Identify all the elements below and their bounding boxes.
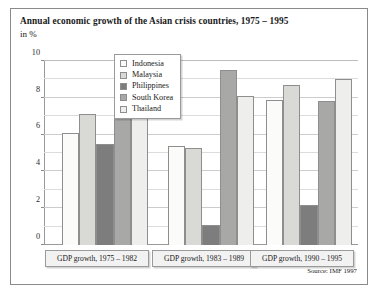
y-axis-tick-mark	[41, 97, 44, 98]
chart-figure: Annual economic growth of the Asian cris…	[10, 8, 368, 285]
bar	[237, 96, 254, 245]
category-label: GDP growth, 1975 – 1982	[45, 250, 149, 267]
bar	[62, 133, 79, 245]
bar	[266, 100, 283, 245]
bar	[202, 225, 219, 245]
y-axis-tick-label: 2	[22, 196, 40, 204]
category-label: GDP growth, 1983 – 1989	[152, 250, 256, 267]
bar	[318, 101, 335, 245]
y-axis-tick-label: 4	[22, 159, 40, 167]
legend-swatch-icon	[120, 94, 127, 101]
legend-item-label: South Korea	[132, 94, 173, 102]
bar	[79, 114, 96, 245]
bar	[96, 144, 113, 245]
bar-group	[266, 61, 352, 245]
category-label: GDP growth, 1990 – 1995	[250, 250, 354, 267]
bar	[283, 85, 300, 245]
legend-swatch-icon	[120, 60, 127, 67]
y-axis-tick-label: 10	[22, 49, 40, 57]
legend-swatch-icon	[120, 106, 127, 113]
legend-item: Malaysia	[120, 69, 173, 80]
y-axis-tick-mark	[41, 170, 44, 171]
y-axis-tick-label: 0	[22, 233, 40, 241]
chart-legend: IndonesiaMalaysiaPhilippinesSouth KoreaT…	[114, 54, 181, 119]
y-axis-tick-label: 6	[22, 122, 40, 130]
legend-item: South Korea	[120, 92, 173, 103]
bar	[185, 148, 202, 245]
legend-swatch-icon	[120, 72, 127, 79]
legend-item-label: Malaysia	[132, 71, 162, 79]
chart-title: Annual economic growth of the Asian cris…	[20, 16, 288, 26]
bar	[114, 116, 131, 245]
y-axis-tick-mark	[41, 244, 44, 245]
legend-item: Thailand	[120, 104, 173, 115]
source-note: Source: IMF 1997	[307, 267, 357, 274]
bar	[168, 146, 185, 245]
bar	[220, 70, 237, 245]
legend-item-label: Philippines	[132, 82, 169, 90]
legend-item-label: Thailand	[132, 105, 161, 113]
legend-item: Philippines	[120, 81, 173, 92]
y-axis-tick-mark	[41, 207, 44, 208]
chart-subtitle: in %	[20, 29, 37, 39]
plot-area: 0246810	[44, 61, 358, 245]
bar	[335, 79, 352, 245]
y-axis-tick-label: 8	[22, 86, 40, 94]
legend-item-label: Indonesia	[132, 60, 164, 68]
legend-item: Indonesia	[120, 58, 173, 69]
bar	[131, 116, 148, 245]
y-axis-tick-mark	[41, 134, 44, 135]
y-axis-tick-mark	[41, 60, 44, 61]
bar	[300, 205, 317, 245]
legend-swatch-icon	[120, 83, 127, 90]
